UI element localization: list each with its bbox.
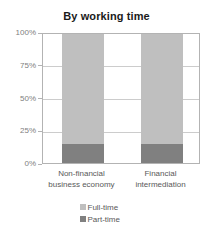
x-axis: Non-financialbusiness economyFinancialin… [42,168,200,196]
plot-area [42,33,200,164]
legend-label: Part-time [88,215,120,224]
y-tick-label: 75% [0,62,36,70]
legend-label: Full-time [88,203,119,212]
x-category-label: Financialintermediation [116,168,206,190]
bar-segment-part-time [141,144,183,163]
bar-segment-full-time [141,34,183,144]
bar-segment-part-time [62,144,104,163]
legend-item-full-time[interactable]: Full-time [80,201,134,213]
y-tick-label: 25% [0,127,36,135]
x-category-label-line: business economy [37,179,127,190]
y-tick-label: 100% [0,29,36,37]
x-category-label: Non-financialbusiness economy [37,168,127,190]
chart-legend: Full-timePart-time [0,201,213,225]
x-category-label-line: Financial [116,168,206,179]
x-category-label-line: Non-financial [37,168,127,179]
bar-stack [62,34,104,163]
x-category-label-line: intermediation [116,179,206,190]
y-tick-label: 50% [0,95,36,103]
y-tick-label: 0% [0,160,36,168]
bar-stack [141,34,183,163]
chart-container: By working time 0%25%50%75%100% Non-fina… [0,0,213,234]
legend-item-part-time[interactable]: Part-time [80,213,134,225]
legend-swatch-icon [80,204,86,210]
y-axis: 0%25%50%75%100% [0,33,36,164]
legend-swatch-icon [80,216,86,222]
bar-segment-full-time [62,34,104,144]
chart-title: By working time [0,10,213,23]
